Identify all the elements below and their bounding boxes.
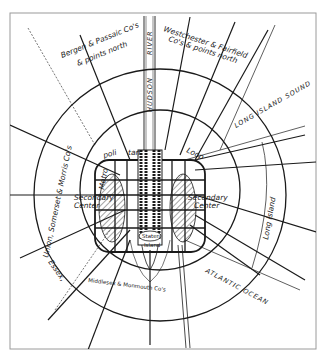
label-hudson: HUDSON xyxy=(146,77,154,112)
diagram-frame xyxy=(10,13,316,349)
label-secondary-center-right-2: Center xyxy=(194,201,220,210)
secondary-center-right xyxy=(170,174,196,242)
label-river: RIVER xyxy=(146,30,154,55)
regional-plan-diagram: Bergen & Passaic Co's & points north Wes… xyxy=(0,0,325,362)
label-tan: tan xyxy=(128,148,141,157)
label-staten: Staten xyxy=(142,233,161,239)
label-island: Island xyxy=(144,242,160,248)
label-secondary-center-left-2: Center xyxy=(74,201,100,210)
